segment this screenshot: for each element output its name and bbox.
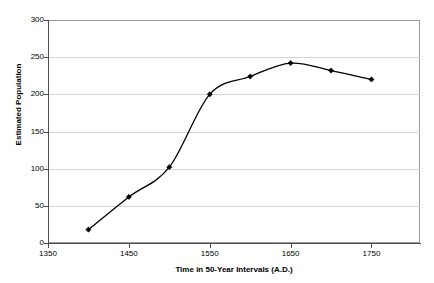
series-layer <box>0 0 434 283</box>
series-markers <box>86 61 374 233</box>
data-point-marker <box>288 61 293 66</box>
data-point-marker <box>328 68 333 73</box>
population-line-chart: 050100150200250300 Estimated Population … <box>0 0 434 283</box>
data-point-marker <box>248 74 253 79</box>
data-point-marker <box>369 77 374 82</box>
series-line <box>88 63 371 230</box>
